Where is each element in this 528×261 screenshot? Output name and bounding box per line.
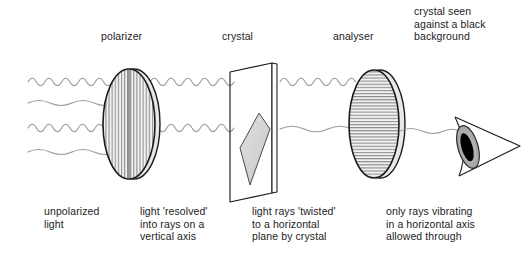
wave-gentle-row4-left bbox=[28, 150, 116, 155]
analyser bbox=[349, 70, 405, 178]
wave-tight-row1-left bbox=[28, 78, 120, 86]
wave-tight-row3-mid bbox=[150, 124, 234, 132]
wave-tight-row1-mid bbox=[150, 78, 234, 86]
polarization-diagram: polarizer crystal analyser crystal seen … bbox=[0, 0, 528, 261]
label-analyser: analyser bbox=[333, 30, 374, 43]
label-only-rays-vibrating-horizontal: only rays vibrating in a horizontal axis… bbox=[386, 205, 475, 243]
wave-gentle-final bbox=[400, 129, 460, 134]
wave-tight-row1-right bbox=[280, 78, 356, 86]
waves-after-analyser bbox=[400, 129, 460, 134]
label-unpolarized-light: unpolarized light bbox=[44, 205, 99, 230]
waves-polarizer-to-crystal bbox=[150, 78, 234, 132]
waves-crystal-to-analyser bbox=[280, 78, 356, 132]
polarizer bbox=[103, 69, 160, 179]
crystal-slide bbox=[230, 63, 277, 202]
wave-gentle-row2-left bbox=[28, 101, 116, 106]
label-light-rays-twisted-horizontal: light rays 'twisted' to a horizontal pla… bbox=[252, 205, 336, 243]
label-crystal: crystal bbox=[222, 30, 253, 43]
analyser-disc bbox=[349, 70, 399, 178]
label-light-resolved-vertical-axis: light 'resolved' into rays on a vertical… bbox=[140, 205, 207, 243]
wave-gentle-row3-right bbox=[280, 126, 352, 132]
crystal-plate-edge bbox=[272, 63, 277, 193]
label-crystal-seen-against-black-background: crystal seen against a black background bbox=[414, 5, 486, 43]
label-polarizer: polarizer bbox=[101, 30, 142, 43]
observer-eye bbox=[452, 117, 520, 176]
